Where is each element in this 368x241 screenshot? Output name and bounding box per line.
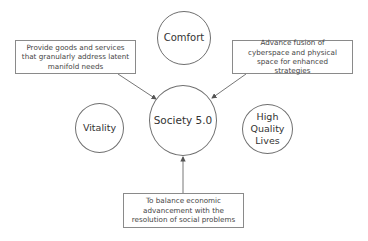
- circle-high-quality-lives: High Quality Lives: [242, 104, 293, 154]
- circle-comfort-label: Comfort: [164, 32, 205, 45]
- circle-vitality: Vitality: [75, 103, 124, 153]
- circle-vitality-label: Vitality: [83, 122, 116, 134]
- box-balance-text: To balance economic advancement with the…: [129, 196, 238, 224]
- arrow-cyber-to-society: [212, 74, 246, 98]
- circle-hql-label: High Quality Lives: [251, 111, 285, 147]
- box-cyber-physical: Advance fusion of cyberspace and physica…: [232, 40, 353, 74]
- circle-society-center: Society 5.0: [149, 85, 217, 156]
- society-label: Society 5.0: [154, 114, 213, 127]
- box-cyber-physical-text: Advance fusion of cyberspace and physica…: [241, 38, 344, 75]
- arrow-goods-to-society: [118, 74, 156, 99]
- box-balance: To balance economic advancement with the…: [123, 193, 244, 228]
- box-goods-services: Provide goods and services that granular…: [15, 40, 136, 74]
- circle-comfort: Comfort: [157, 11, 211, 65]
- box-goods-services-text: Provide goods and services that granular…: [19, 43, 132, 71]
